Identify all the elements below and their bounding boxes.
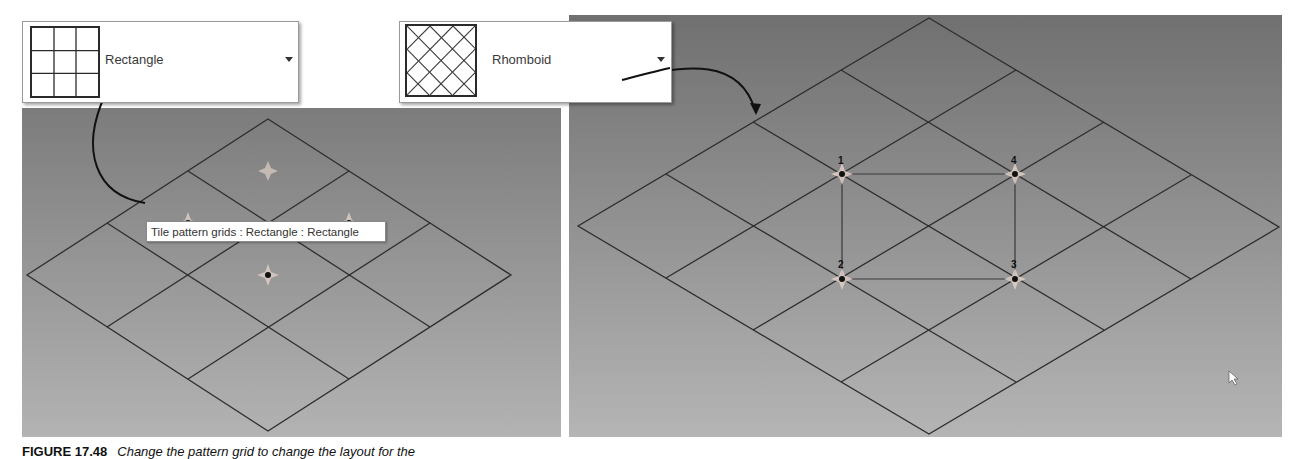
arrowhead-icon bbox=[750, 103, 761, 115]
point-3-marker bbox=[1004, 268, 1026, 290]
dropdown-selected-value: Rhomboid bbox=[492, 52, 551, 67]
dropdown-arrow-icon[interactable] bbox=[285, 57, 293, 62]
figure-caption-text: Change the pattern grid to change the la… bbox=[117, 444, 415, 459]
figure-caption: FIGURE 17.48Change the pattern grid to c… bbox=[22, 444, 415, 459]
pattern-dropdown-rhomboid[interactable]: Rhomboid bbox=[399, 21, 672, 103]
arrow-rectangle-to-left-grid bbox=[93, 95, 145, 203]
point-label-1: 1 bbox=[838, 155, 844, 166]
figure-number: FIGURE 17.48 bbox=[22, 444, 107, 459]
point-label-2: 2 bbox=[838, 259, 844, 270]
tile-pattern-tooltip: Tile pattern grids : Rectangle : Rectang… bbox=[146, 221, 386, 242]
dropdown-arrow-icon[interactable] bbox=[657, 57, 665, 62]
dropdown-selected-value: Rectangle bbox=[105, 52, 164, 67]
point-label-3: 3 bbox=[1011, 259, 1017, 270]
pattern-dropdown-rectangle[interactable]: Rectangle bbox=[22, 21, 299, 103]
point-1-marker bbox=[831, 163, 853, 185]
point-4-marker bbox=[1004, 163, 1026, 185]
snap-point-marker bbox=[258, 161, 278, 181]
rhomboid-grid-pattern-icon bbox=[405, 24, 477, 97]
point-2-marker bbox=[831, 268, 853, 290]
right-tile-grid bbox=[578, 18, 1279, 434]
rectangle-grid-pattern-icon bbox=[30, 26, 100, 98]
point-label-4: 4 bbox=[1011, 155, 1017, 166]
mouse-cursor-icon bbox=[1228, 370, 1240, 386]
snap-point-marker bbox=[257, 264, 279, 286]
